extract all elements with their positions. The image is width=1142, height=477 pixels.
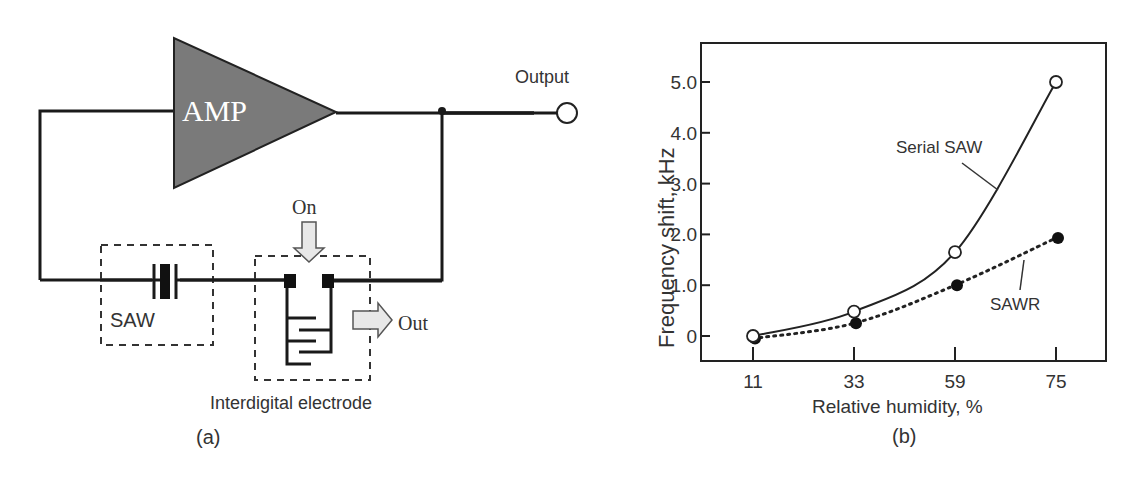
figure: AMP Output SAW On Out [0,0,1142,477]
sawr-label: SAWR [990,295,1040,314]
circuit-diagram: AMP Output SAW On Out [40,38,577,448]
interdigital-electrode-icon [287,288,331,364]
sawr-point [850,317,862,329]
y-axis-title: Frequency shift, kHz [654,147,679,348]
electrode-pad-right [322,274,334,288]
y-tick-label: 0 [686,326,697,347]
humidity-chart: 01.02.03.04.05.0 11335975 Serial SAW SAW… [654,43,1106,447]
serial-saw-point [848,306,860,318]
plot-frame [701,43,1106,361]
y-tick-label: 5.0 [671,72,697,93]
sawr-point [951,279,963,291]
y-tick-label: 4.0 [671,123,697,144]
serial-saw-point [747,330,759,342]
x-tick-label: 33 [843,371,864,392]
x-axis: 11335975 [743,347,1066,392]
x-axis-title: Relative humidity, % [812,396,983,417]
output-terminal-icon [557,103,577,123]
output-label: Output [515,67,569,87]
out-label: Out [398,312,428,334]
caption-b: (b) [892,425,916,447]
x-tick-label: 59 [944,371,965,392]
amp-label: AMP [182,94,247,127]
serial-saw-point [1050,76,1062,88]
on-label: On [292,196,316,218]
saw-label: SAW [110,309,155,331]
sawr-leader [1020,260,1024,290]
wires [40,111,534,280]
caption-a: (a) [196,426,220,448]
serial-saw-leader [962,163,998,190]
x-tick-label: 11 [743,371,763,392]
electrode-label: Interdigital electrode [210,393,372,413]
serial-saw-point [949,246,961,258]
electrode-pad-left [284,274,296,288]
saw-crystal-icon [160,264,170,299]
sawr-curve [753,238,1056,339]
out-arrow-icon [353,303,392,337]
sawr-point [1052,232,1064,244]
serial-saw-label: Serial SAW [896,138,982,157]
x-tick-label: 75 [1045,371,1066,392]
